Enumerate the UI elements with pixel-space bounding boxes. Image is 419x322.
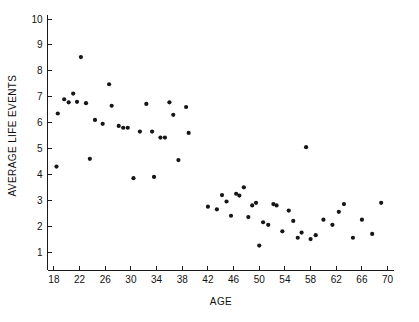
data-point bbox=[62, 97, 66, 101]
data-point bbox=[274, 203, 278, 207]
x-axis-tick-label: 66 bbox=[356, 274, 368, 285]
data-point bbox=[296, 236, 300, 240]
data-point bbox=[184, 105, 188, 109]
data-point bbox=[163, 135, 167, 139]
data-point bbox=[379, 201, 383, 205]
data-point bbox=[220, 193, 224, 197]
data-point bbox=[75, 100, 79, 104]
y-axis-tick-label: 8 bbox=[37, 65, 43, 76]
data-point bbox=[150, 130, 154, 134]
y-axis-tick-label: 3 bbox=[37, 195, 43, 206]
data-point bbox=[250, 203, 254, 207]
data-point bbox=[152, 175, 156, 179]
data-point bbox=[88, 157, 92, 161]
data-point bbox=[261, 220, 265, 224]
y-axis-tick-label: 5 bbox=[37, 143, 43, 154]
x-axis-tick-label: 50 bbox=[254, 274, 266, 285]
data-point bbox=[314, 233, 318, 237]
data-point bbox=[187, 131, 191, 135]
data-point bbox=[84, 101, 88, 105]
data-point bbox=[360, 218, 364, 222]
data-point bbox=[167, 100, 171, 104]
data-point bbox=[287, 208, 291, 212]
data-point bbox=[242, 185, 246, 189]
data-point bbox=[280, 229, 284, 233]
x-axis-tick-label: 46 bbox=[228, 274, 240, 285]
x-axis-label: AGE bbox=[47, 296, 395, 307]
data-point bbox=[246, 215, 250, 219]
x-axis: 1822263034384246505458626670 bbox=[48, 266, 395, 285]
data-point bbox=[158, 135, 162, 139]
x-axis-tick-label: 38 bbox=[177, 274, 189, 285]
data-point bbox=[254, 201, 258, 205]
data-point bbox=[266, 223, 270, 227]
x-axis-tick-label: 58 bbox=[305, 274, 317, 285]
data-point bbox=[54, 164, 58, 168]
plot-area: 12345678910 1822263034384246505458626670 bbox=[0, 0, 419, 322]
data-point bbox=[117, 124, 121, 128]
data-point bbox=[224, 199, 228, 203]
data-point bbox=[131, 176, 135, 180]
data-point bbox=[93, 118, 97, 122]
data-point bbox=[107, 82, 111, 86]
y-axis: 12345678910 bbox=[31, 14, 51, 270]
x-axis-tick-label: 62 bbox=[331, 274, 343, 285]
x-axis-tick-label: 54 bbox=[279, 274, 291, 285]
data-point bbox=[121, 126, 125, 130]
data-point bbox=[351, 236, 355, 240]
data-point bbox=[330, 223, 334, 227]
x-axis-tick-label: 22 bbox=[74, 274, 86, 285]
data-point bbox=[71, 91, 75, 95]
x-axis-tick-label: 30 bbox=[125, 274, 137, 285]
x-axis-tick-label: 70 bbox=[382, 274, 394, 285]
data-point bbox=[138, 130, 142, 134]
y-axis-tick-label: 10 bbox=[31, 14, 43, 25]
data-point bbox=[304, 145, 308, 149]
data-point bbox=[56, 111, 60, 115]
data-point bbox=[110, 104, 114, 108]
data-point bbox=[291, 219, 295, 223]
data-point bbox=[144, 102, 148, 106]
data-point bbox=[215, 207, 219, 211]
data-points-layer bbox=[54, 55, 383, 248]
data-point bbox=[79, 55, 83, 59]
data-point bbox=[257, 243, 261, 247]
data-point bbox=[370, 232, 374, 236]
x-axis-tick-label: 34 bbox=[151, 274, 163, 285]
data-point bbox=[300, 230, 304, 234]
x-axis-tick-label: 18 bbox=[48, 274, 60, 285]
data-point bbox=[321, 218, 325, 222]
y-axis-tick-label: 4 bbox=[37, 169, 43, 180]
y-axis-tick-label: 9 bbox=[37, 39, 43, 50]
data-point bbox=[171, 113, 175, 117]
data-point bbox=[229, 214, 233, 218]
data-point bbox=[67, 100, 71, 104]
y-axis-tick-label: 1 bbox=[37, 247, 43, 258]
data-point bbox=[342, 202, 346, 206]
data-point bbox=[176, 158, 180, 162]
scatter-chart-figure: AVERAGE LIFE EVENTS 12345678910 18222630… bbox=[0, 0, 419, 322]
data-point bbox=[126, 126, 130, 130]
data-point bbox=[101, 122, 105, 126]
y-axis-tick-label: 7 bbox=[37, 91, 43, 102]
data-point bbox=[237, 193, 241, 197]
data-point bbox=[206, 205, 210, 209]
y-axis-tick-label: 2 bbox=[37, 221, 43, 232]
y-axis-tick-label: 6 bbox=[37, 117, 43, 128]
data-point bbox=[337, 210, 341, 214]
x-axis-tick-label: 26 bbox=[100, 274, 112, 285]
x-axis-tick-label: 42 bbox=[202, 274, 214, 285]
data-point bbox=[308, 237, 312, 241]
